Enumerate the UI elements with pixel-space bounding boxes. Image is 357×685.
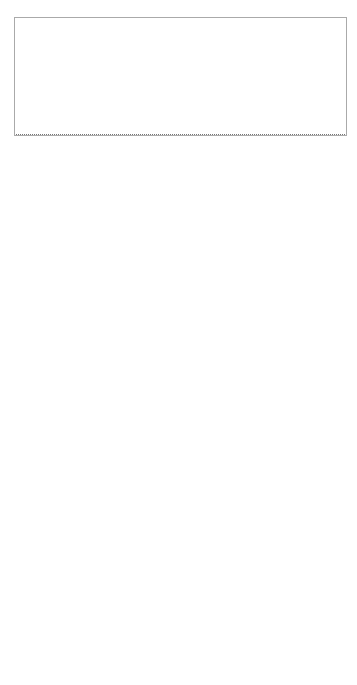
project-frame-box2 [14,17,347,135]
